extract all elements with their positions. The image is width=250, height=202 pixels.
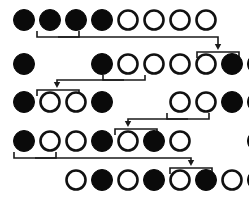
open-circle [171, 93, 190, 112]
open-circle [197, 55, 216, 74]
connector-run [35, 158, 191, 161]
circle-row [14, 92, 250, 113]
source-bracket [167, 113, 209, 119]
filled-circle [144, 170, 165, 191]
open-circle [171, 55, 190, 74]
diagram-canvas [0, 0, 249, 202]
open-circle [171, 171, 190, 190]
filled-circle [222, 54, 243, 75]
filled-circle [248, 54, 250, 75]
arrow-head-icon [125, 121, 131, 127]
circle-row [14, 10, 216, 31]
open-circle [145, 55, 164, 74]
connector-run [57, 80, 124, 83]
filled-circle [14, 92, 35, 113]
filled-circle [14, 131, 35, 152]
filled-circle [248, 131, 250, 152]
filled-circle [92, 170, 113, 191]
filled-circle [92, 10, 113, 31]
arrow-head-icon [54, 82, 60, 88]
open-circle [197, 11, 216, 30]
filled-circle [92, 54, 113, 75]
open-circle [67, 93, 86, 112]
open-circle [119, 171, 138, 190]
filled-circle [248, 92, 250, 113]
filled-circle [196, 170, 217, 191]
open-circle [119, 55, 138, 74]
arrow-head-icon [215, 44, 221, 50]
filled-circle [14, 54, 35, 75]
filled-circle [40, 10, 61, 31]
source-bracket [37, 31, 79, 37]
open-circle [171, 132, 190, 151]
filled-circle [144, 131, 165, 152]
open-circle [67, 171, 86, 190]
connector-run [128, 119, 188, 122]
filled-circle [92, 92, 113, 113]
filled-circle [92, 131, 113, 152]
connector-run [58, 37, 218, 45]
circle-row [14, 131, 250, 152]
filled-circle [248, 170, 250, 191]
circle-row [67, 170, 250, 191]
open-circle [197, 93, 216, 112]
open-circle [119, 132, 138, 151]
open-circle [67, 132, 86, 151]
source-bracket [14, 152, 56, 158]
open-circle [41, 93, 60, 112]
open-circle [145, 11, 164, 30]
filled-circle [14, 10, 35, 31]
open-circle [41, 132, 60, 151]
filled-circle [222, 92, 243, 113]
open-circle [171, 11, 190, 30]
arrow-head-icon [188, 160, 194, 166]
open-circle [119, 11, 138, 30]
circle-row [14, 54, 250, 75]
circle-transformation-diagram [0, 0, 249, 202]
open-circle [223, 171, 242, 190]
filled-circle [66, 10, 87, 31]
